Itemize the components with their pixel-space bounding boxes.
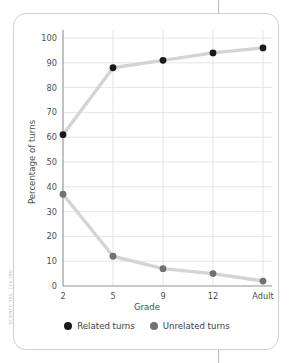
chart-legend: Related turnsUnrelated turns bbox=[14, 321, 280, 331]
data-point bbox=[260, 278, 267, 285]
y-tick-label: 20 bbox=[31, 232, 57, 240]
x-tick-label: 2 bbox=[60, 292, 65, 300]
source-credit: SCIENCE 305, 174-180 bbox=[8, 263, 13, 325]
x-tick-label: 5 bbox=[110, 292, 115, 300]
chart-plot-area: Percentage of turns Grade 01020304050607… bbox=[14, 14, 280, 351]
data-point bbox=[160, 265, 167, 272]
y-tick-label: 0 bbox=[31, 282, 57, 290]
data-point bbox=[110, 64, 117, 71]
y-tick-label: 90 bbox=[31, 59, 57, 67]
x-tick-label: 12 bbox=[208, 292, 218, 300]
bottom-edge-rule bbox=[218, 349, 219, 363]
top-edge-rule bbox=[218, 0, 219, 13]
data-point bbox=[260, 45, 267, 52]
data-point bbox=[60, 191, 67, 198]
data-point bbox=[160, 57, 167, 64]
x-axis-title: Grade bbox=[14, 302, 280, 312]
legend-label: Related turns bbox=[77, 321, 135, 331]
legend-label: Unrelated turns bbox=[163, 321, 230, 331]
y-tick-label: 100 bbox=[31, 34, 57, 42]
y-tick-label: 10 bbox=[31, 257, 57, 265]
figure-card: Percentage of turns Grade 01020304050607… bbox=[13, 13, 279, 350]
y-tick-label: 40 bbox=[31, 183, 57, 191]
y-tick-label: 80 bbox=[31, 84, 57, 92]
legend-entry: Unrelated turns bbox=[150, 321, 230, 331]
data-point bbox=[60, 131, 67, 138]
legend-marker-icon bbox=[150, 322, 158, 330]
data-point bbox=[110, 253, 117, 260]
x-tick-label: 9 bbox=[160, 292, 165, 300]
x-tick-label: Adult bbox=[252, 292, 273, 300]
y-tick-label: 30 bbox=[31, 208, 57, 216]
legend-marker-icon bbox=[64, 322, 72, 330]
y-tick-label: 50 bbox=[31, 158, 57, 166]
data-point bbox=[210, 49, 217, 56]
y-tick-label: 60 bbox=[31, 133, 57, 141]
y-tick-label: 70 bbox=[31, 108, 57, 116]
data-point bbox=[210, 270, 217, 277]
legend-entry: Related turns bbox=[64, 321, 135, 331]
